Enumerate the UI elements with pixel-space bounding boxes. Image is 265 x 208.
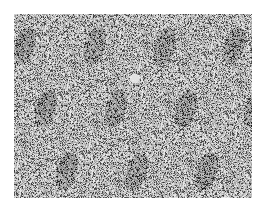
granular-texture-image — [14, 14, 252, 198]
texture-canvas — [14, 14, 252, 198]
